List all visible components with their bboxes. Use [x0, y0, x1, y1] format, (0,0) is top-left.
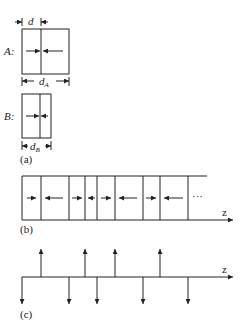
db-label: dB: [30, 140, 41, 154]
da-label: dA: [39, 75, 50, 89]
db-dimension: dB: [22, 140, 51, 154]
panel-c-caption: (c): [20, 308, 33, 321]
panel-a: d A: dA B: dB (a): [3, 15, 69, 166]
panel-b: z ··· (b): [20, 176, 233, 236]
z-axis-label-c: z: [222, 263, 227, 275]
panel-b-caption: (b): [20, 223, 33, 236]
da-dimension: dA: [22, 75, 69, 89]
z-axis-label-b: z: [222, 206, 227, 218]
ellipsis: ···: [192, 190, 203, 202]
box-a-label: A:: [3, 45, 14, 57]
diagram-canvas: d A: dA B: dB (a): [0, 0, 243, 332]
panel-a-caption: (a): [20, 153, 33, 166]
panel-c: z (c): [20, 249, 233, 321]
box-b-label: B:: [4, 110, 14, 122]
thin-layer-dimension: d: [15, 15, 48, 27]
d-label: d: [28, 15, 34, 27]
